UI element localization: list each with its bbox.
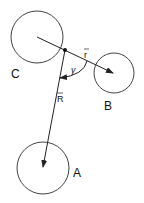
vector-R-label: R xyxy=(57,94,64,104)
origin-point xyxy=(63,48,67,52)
vector-r-label: r xyxy=(84,50,87,60)
label-a: A xyxy=(73,166,81,180)
angle-gamma-label: γ xyxy=(71,65,76,75)
label-b: B xyxy=(104,99,112,113)
three-body-diagram: C B A r R γ xyxy=(0,0,144,203)
body-a-circle xyxy=(17,142,69,194)
body-b-circle xyxy=(94,53,134,93)
label-c: C xyxy=(11,67,20,81)
